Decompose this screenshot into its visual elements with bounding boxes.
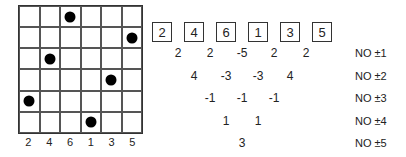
difference-value: -3 bbox=[246, 69, 270, 83]
grid-cell bbox=[101, 112, 122, 133]
column-label: 5 bbox=[122, 136, 142, 148]
dot-marker bbox=[24, 96, 35, 107]
grid-cell bbox=[19, 27, 40, 48]
no-distance-label: NO ±3 bbox=[355, 92, 387, 104]
grid-cell bbox=[122, 112, 143, 133]
dot-marker bbox=[85, 117, 96, 128]
difference-value: 2 bbox=[166, 46, 190, 60]
sequence-box: 3 bbox=[280, 22, 300, 42]
sequence-box: 4 bbox=[184, 22, 204, 42]
grid-cell bbox=[60, 112, 81, 133]
difference-value: 3 bbox=[230, 136, 254, 150]
difference-value: 1 bbox=[246, 114, 270, 128]
dot-marker bbox=[65, 11, 76, 22]
difference-value: -5 bbox=[230, 46, 254, 60]
grid-cell bbox=[40, 27, 61, 48]
sequence-box: 5 bbox=[312, 22, 332, 42]
grid-cell bbox=[60, 48, 81, 69]
column-label: 3 bbox=[102, 136, 122, 148]
grid-cell bbox=[81, 91, 102, 112]
grid-cell bbox=[101, 91, 122, 112]
grid-cell bbox=[60, 6, 81, 27]
grid-cell bbox=[101, 27, 122, 48]
column-label: 2 bbox=[18, 136, 38, 148]
sequence-box: 2 bbox=[152, 22, 172, 42]
grid-cell bbox=[122, 27, 143, 48]
dot-marker bbox=[126, 32, 137, 43]
grid-cell bbox=[101, 6, 122, 27]
grid-cell bbox=[19, 48, 40, 69]
difference-value: 4 bbox=[278, 69, 302, 83]
difference-value: -3 bbox=[214, 69, 238, 83]
sequence-box: 1 bbox=[248, 22, 268, 42]
grid-cell bbox=[19, 91, 40, 112]
queens-grid bbox=[18, 5, 143, 134]
grid-cell bbox=[81, 112, 102, 133]
grid-cell bbox=[19, 69, 40, 90]
difference-value: 4 bbox=[182, 69, 206, 83]
grid-cell bbox=[19, 112, 40, 133]
grid-cell bbox=[40, 69, 61, 90]
grid-cell bbox=[81, 69, 102, 90]
difference-value: -1 bbox=[198, 91, 222, 105]
column-label: 6 bbox=[60, 136, 80, 148]
difference-value: 2 bbox=[294, 46, 318, 60]
difference-value: 1 bbox=[214, 114, 238, 128]
dot-marker bbox=[44, 53, 55, 64]
column-label: 1 bbox=[81, 136, 101, 148]
no-distance-label: NO ±4 bbox=[355, 115, 387, 127]
grid-cell bbox=[40, 48, 61, 69]
difference-value: 2 bbox=[198, 46, 222, 60]
grid-cell bbox=[122, 6, 143, 27]
difference-value: -1 bbox=[230, 91, 254, 105]
grid-cell bbox=[81, 6, 102, 27]
difference-value: 2 bbox=[262, 46, 286, 60]
no-distance-label: NO ±2 bbox=[355, 70, 387, 82]
dot-marker bbox=[106, 75, 117, 86]
grid-cell bbox=[101, 48, 122, 69]
grid-cell bbox=[60, 27, 81, 48]
no-distance-label: NO ±1 bbox=[355, 47, 387, 59]
grid-cell bbox=[19, 6, 40, 27]
grid-cell bbox=[40, 112, 61, 133]
grid-cell bbox=[81, 48, 102, 69]
grid-cell bbox=[81, 27, 102, 48]
no-distance-label: NO ±5 bbox=[355, 137, 387, 149]
grid-cell bbox=[101, 69, 122, 90]
column-label: 4 bbox=[39, 136, 59, 148]
grid-cell bbox=[122, 48, 143, 69]
grid-cell bbox=[40, 6, 61, 27]
grid-cell bbox=[60, 91, 81, 112]
grid-cell bbox=[40, 91, 61, 112]
difference-value: -1 bbox=[262, 91, 286, 105]
grid-cell bbox=[122, 91, 143, 112]
grid-cell bbox=[60, 69, 81, 90]
grid-cell bbox=[122, 69, 143, 90]
sequence-box: 6 bbox=[216, 22, 236, 42]
